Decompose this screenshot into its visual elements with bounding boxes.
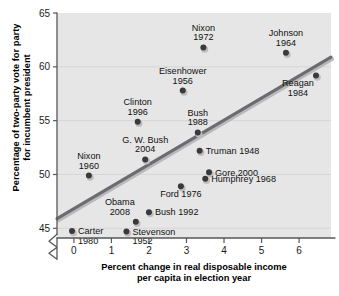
x-axis-tick-label: 4 [221, 245, 227, 256]
svg-text:Nixon: Nixon [192, 23, 215, 33]
y-axis-tick-label: 50 [39, 169, 51, 180]
data-point-label: Carter1980 [78, 226, 103, 246]
svg-text:2004: 2004 [135, 144, 155, 154]
data-point-marker [180, 88, 186, 94]
chart-canvas: Nixon1972Johnson1964Eisenhower1956Reagan… [0, 0, 339, 296]
x-axis-ticks: 0123456 [71, 238, 302, 256]
svg-text:1996: 1996 [128, 107, 148, 117]
data-point-label: Stevenson1952 [132, 227, 175, 247]
svg-text:Johnson: Johnson [269, 28, 303, 38]
svg-text:1956: 1956 [173, 76, 193, 86]
data-point-marker [69, 228, 75, 234]
svg-text:G. W. Bush: G. W. Bush [122, 135, 168, 145]
data-point: Truman 1948 [197, 146, 260, 156]
data-point-marker [146, 209, 152, 215]
svg-text:Ford 1976: Ford 1976 [160, 189, 201, 199]
svg-text:1972: 1972 [193, 32, 213, 42]
svg-text:2008: 2008 [110, 207, 130, 217]
svg-text:Bush: Bush [187, 108, 208, 118]
svg-text:Truman 1948: Truman 1948 [206, 146, 260, 156]
y-axis-tick-label: 45 [39, 223, 51, 234]
data-point-label: Nixon1960 [77, 151, 100, 171]
data-point-marker [200, 44, 206, 50]
y-axis-title: Percentage of two-party vote for partyfo… [11, 23, 32, 192]
svg-text:Percent change in real disposa: Percent change in real disposable income [101, 262, 286, 272]
y-axis-tick-label: 65 [39, 8, 51, 19]
y-axis-break-symbol [49, 234, 57, 259]
data-point: Humphrey 1968 [202, 174, 276, 184]
svg-text:1984: 1984 [288, 88, 308, 98]
svg-text:for incumbent president: for incumbent president [22, 54, 32, 160]
data-point-label: Ford 1976 [160, 189, 201, 199]
y-axis-tick-label: 55 [39, 115, 51, 126]
data-point-label: Bush 1992 [155, 207, 198, 217]
svg-text:Eisenhower: Eisenhower [159, 66, 207, 76]
svg-text:Nixon: Nixon [77, 151, 100, 161]
x-axis-tick-label: 3 [184, 245, 190, 256]
x-axis-tick-label: 6 [296, 245, 302, 256]
y-axis-ticks: 4550556065 [39, 8, 57, 234]
x-axis-tick-label: 1 [109, 245, 115, 256]
data-point-label: Clinton1996 [124, 97, 152, 117]
x-axis-tick-label: 2 [146, 245, 152, 256]
data-point-marker [202, 176, 208, 182]
x-axis-title: Percent change in real disposable income… [101, 262, 286, 283]
data-point-label: Nixon1972 [192, 23, 215, 43]
data-point-marker [283, 50, 289, 56]
svg-text:Clinton: Clinton [124, 97, 152, 107]
data-point-marker [142, 156, 148, 162]
svg-text:per capita in election year: per capita in election year [137, 273, 252, 283]
data-point-label: Truman 1948 [206, 146, 260, 156]
data-point-label: Humphrey 1968 [211, 174, 276, 184]
data-point-label: Bush1988 [187, 108, 208, 128]
svg-text:1960: 1960 [79, 161, 99, 171]
data-point-marker [195, 129, 201, 135]
svg-text:Reagan: Reagan [282, 78, 314, 88]
svg-text:Obama: Obama [105, 197, 136, 207]
y-axis-tick-label: 60 [39, 61, 51, 72]
svg-text:Carter: Carter [78, 226, 103, 236]
x-axis-tick-label: 5 [259, 245, 265, 256]
svg-text:1988: 1988 [188, 117, 208, 127]
svg-text:Percentage of two-party vote f: Percentage of two-party vote for party [11, 23, 21, 192]
x-axis-tick-label: 0 [71, 245, 77, 256]
scatter-plot-figure: Nixon1972Johnson1964Eisenhower1956Reagan… [0, 0, 339, 296]
data-point-marker [135, 119, 141, 125]
svg-text:Bush 1992: Bush 1992 [155, 207, 198, 217]
svg-text:Humphrey 1968: Humphrey 1968 [211, 174, 276, 184]
data-point-marker [86, 173, 92, 179]
data-point-marker [123, 229, 129, 235]
data-point-marker [133, 219, 139, 225]
svg-text:1964: 1964 [276, 38, 296, 48]
svg-text:Stevenson: Stevenson [132, 227, 175, 237]
data-point-marker [197, 148, 203, 154]
